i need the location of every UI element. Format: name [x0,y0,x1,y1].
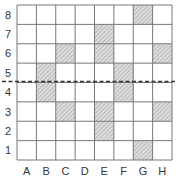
column-label-f: F [120,165,127,177]
row-label-7: 7 [5,28,11,40]
row-label-8: 8 [5,9,11,21]
shaded-cell-b4 [36,83,55,102]
grid-diagram: 87654321 ABCDEFGH [0,0,178,180]
shaded-cell-h3 [153,102,172,121]
shaded-cell-b5 [36,63,55,82]
row-labels: 87654321 [5,9,11,157]
shaded-cell-e2 [95,121,114,140]
shaded-cell-c3 [56,102,75,121]
column-label-d: D [81,165,89,177]
shaded-cell-e7 [95,24,114,43]
shaded-cell-e3 [95,102,114,121]
column-label-g: G [139,165,148,177]
column-label-e: E [101,165,108,177]
shaded-cell-c6 [56,44,75,63]
shaded-cell-h6 [153,44,172,63]
shaded-cell-g8 [133,5,152,24]
row-label-2: 2 [5,125,11,137]
row-label-1: 1 [5,144,11,156]
shaded-cell-f5 [114,63,133,82]
row-label-5: 5 [5,67,11,79]
row-label-3: 3 [5,106,11,118]
column-label-a: A [23,165,31,177]
row-label-4: 4 [5,86,11,98]
shaded-cell-f4 [114,83,133,102]
row-label-6: 6 [5,47,11,59]
column-label-c: C [61,165,69,177]
column-label-h: H [158,165,166,177]
shaded-cell-e6 [95,44,114,63]
grid-lines-layer [17,5,172,160]
column-labels: ABCDEFGH [23,165,166,177]
column-label-b: B [42,165,49,177]
shaded-cell-g1 [133,141,152,160]
